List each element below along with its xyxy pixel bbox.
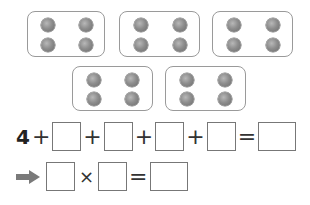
dot-group-1 (27, 11, 105, 57)
dot (218, 73, 232, 87)
dot (180, 73, 194, 87)
plus-sign: + (83, 126, 101, 148)
multiplication-equation: × = (16, 162, 188, 191)
dot (125, 73, 139, 87)
right-arrow-icon (16, 170, 40, 184)
dot (79, 38, 93, 52)
plus-sign: + (186, 126, 204, 148)
dot (125, 92, 139, 106)
dot (41, 18, 55, 32)
dot (173, 38, 187, 52)
answer-box-4[interactable] (207, 122, 236, 151)
factor-box-1[interactable] (46, 162, 75, 191)
dot (227, 38, 241, 52)
dot (87, 92, 101, 106)
first-term: 4 (16, 127, 30, 147)
plus-sign: + (135, 126, 153, 148)
answer-box-1[interactable] (52, 122, 81, 151)
equals-sign: = (238, 126, 256, 148)
answer-box-3[interactable] (155, 122, 184, 151)
dot-group-4 (72, 66, 153, 111)
dot-group-5 (165, 66, 246, 111)
dot (41, 38, 55, 52)
dot (266, 18, 280, 32)
times-sign: × (79, 168, 94, 186)
dot-group-3 (212, 11, 293, 57)
factor-box-2[interactable] (98, 162, 127, 191)
answer-box-2[interactable] (104, 122, 133, 151)
product-answer-box[interactable] (150, 162, 188, 191)
sum-answer-box[interactable] (258, 122, 296, 151)
dot-group-2 (119, 11, 200, 57)
dot (134, 38, 148, 52)
dot (180, 92, 194, 106)
dot (87, 73, 101, 87)
addition-equation: 4 + + + + = (16, 122, 296, 151)
equals-sign: = (129, 166, 147, 188)
dot (134, 18, 148, 32)
plus-sign: + (32, 126, 50, 148)
dot (218, 92, 232, 106)
dot (173, 18, 187, 32)
dot (227, 18, 241, 32)
dot (79, 18, 93, 32)
dot (266, 38, 280, 52)
